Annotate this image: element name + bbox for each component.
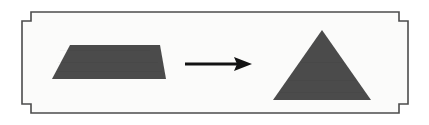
triangle-grain-line	[280, 92, 364, 93]
figure-canvas: Shape transformation diagram A shaded tr…	[0, 0, 429, 125]
triangle-grain-line	[288, 80, 356, 81]
shape-transformation-figure: Shape transformation diagram A shaded tr…	[0, 0, 429, 125]
trapezoid-grain-line	[56, 71, 162, 72]
trapezoid-grain-line	[60, 50, 150, 51]
trapezoid-grain-line	[58, 62, 158, 63]
triangle-grain-line	[300, 62, 344, 63]
